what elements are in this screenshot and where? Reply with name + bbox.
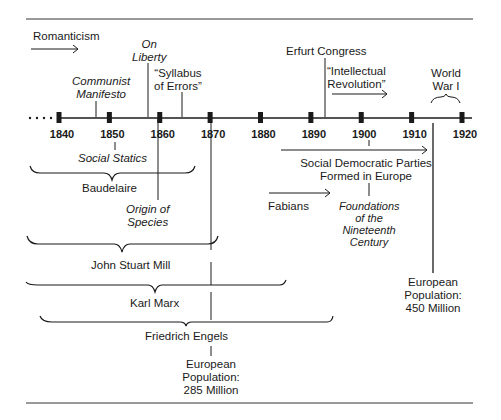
tick-1890 <box>308 112 313 123</box>
year-label-1860: 1860 <box>151 128 175 140</box>
population-1870-label: European Population: 285 Million <box>176 358 246 397</box>
tick-1920 <box>460 112 465 123</box>
year-label-1880: 1880 <box>251 128 275 140</box>
origin-of-species-label: Origin of Species <box>126 203 169 229</box>
year-label-1840: 1840 <box>50 128 74 140</box>
world-war-i-label: World War I <box>428 67 464 93</box>
karl-marx-brace <box>26 280 286 292</box>
tick-1870 <box>208 112 213 123</box>
syllabus-of-errors-label: “Syllabus of Errors” <box>154 67 202 93</box>
intellectual-revolution-arrow <box>332 90 387 98</box>
year-label-1890: 1890 <box>302 128 326 140</box>
year-label-1850: 1850 <box>100 128 124 140</box>
baudelaire-label: Baudelaire <box>82 182 137 195</box>
tick-1910 <box>409 112 414 123</box>
romanticism-label: Romanticism <box>33 30 99 43</box>
john-stuart-mill-label: John Stuart Mill <box>91 259 170 272</box>
romanticism-arrow <box>31 45 78 53</box>
population-1914-label: European Population: 450 Million <box>398 276 468 315</box>
fabians-arrow <box>269 189 330 197</box>
social-statics-label: Social Statics <box>78 152 147 165</box>
on-liberty-label: On Liberty <box>132 38 167 64</box>
tick-1900 <box>359 112 364 123</box>
leading-ellipsis <box>29 117 52 119</box>
fabians-label: Fabians <box>268 200 309 213</box>
timeline-diagram <box>0 0 501 420</box>
year-label-1910: 1910 <box>402 128 426 140</box>
world-war-i-brace <box>431 94 460 103</box>
social-democratic-arrow <box>281 146 427 154</box>
tick-1850 <box>107 112 112 123</box>
year-label-1870: 1870 <box>201 128 225 140</box>
intellectual-revolution-label: “Intellectual Revolution” <box>327 65 386 91</box>
friedrich-engels-label: Friedrich Engels <box>145 330 228 343</box>
tick-1840 <box>57 112 62 123</box>
karl-marx-label: Karl Marx <box>130 297 179 310</box>
communist-manifesto-label: Communist Manifesto <box>72 75 130 101</box>
year-label-1920: 1920 <box>453 128 477 140</box>
year-label-1900: 1900 <box>352 128 376 140</box>
friedrich-engels-brace <box>40 316 333 326</box>
john-stuart-mill-brace <box>27 236 218 252</box>
social-democratic-parties-label: Social Democratic Parties Formed in Euro… <box>281 157 451 183</box>
baudelaire-brace <box>30 166 195 180</box>
tick-1880 <box>258 112 263 123</box>
erfurt-congress-label: Erfurt Congress <box>286 45 367 58</box>
foundations-label: Foundations of the Nineteenth Century <box>339 200 399 248</box>
